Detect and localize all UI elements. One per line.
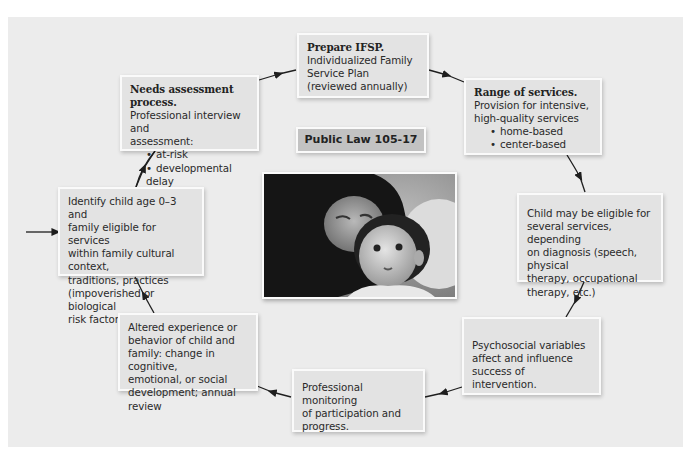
- node-bullet-list: home-based center-based: [474, 125, 592, 151]
- node-line: several services, depending: [527, 220, 653, 246]
- bullet-item: home-based: [490, 125, 592, 138]
- node-line: of participation and: [302, 407, 415, 420]
- node-psychosocial: Psychosocial variables affect and influe…: [462, 317, 601, 395]
- node-line: (impoverished or biological: [68, 287, 194, 313]
- node-altered-experience: Altered experience or behavior of child …: [118, 313, 258, 391]
- node-line: family eligible for services: [68, 221, 194, 247]
- node-bullet-list: at-risk developmental delay: [130, 148, 249, 187]
- node-line: Altered experience or: [128, 321, 248, 334]
- node-line: progress.: [302, 420, 415, 433]
- node-line: Professional interview and: [130, 109, 249, 135]
- bullet-item: center-based: [490, 138, 592, 151]
- node-child-eligible: Child may be eligible for several servic…: [517, 193, 663, 282]
- node-line: assessment:: [130, 135, 249, 148]
- node-range-of-services: Range of services. Provision for intensi…: [464, 78, 602, 155]
- node-needs-assessment: Needs assessment process. Professional i…: [120, 75, 259, 151]
- node-line: (reviewed annually): [307, 80, 419, 93]
- node-line: Professional monitoring: [302, 381, 415, 407]
- node-professional-monitoring: Professional monitoring of participation…: [292, 369, 425, 432]
- node-line: family: change in cognitive,: [128, 347, 248, 373]
- node-title: Needs assessment process.: [130, 83, 249, 109]
- node-title: Range of services.: [474, 86, 592, 99]
- node-title: Prepare IFSP.: [307, 41, 419, 54]
- node-line: within family cultural context,: [68, 247, 194, 273]
- node-line: traditions, practices: [68, 274, 194, 287]
- node-line: success of intervention.: [472, 365, 591, 391]
- bullet-item: at-risk: [146, 148, 249, 161]
- node-line: high-quality services: [474, 112, 592, 125]
- node-line: Service Plan: [307, 67, 419, 80]
- node-line: Psychosocial variables: [472, 339, 591, 352]
- node-line: Individualized Family: [307, 54, 419, 67]
- node-line: behavior of child and: [128, 334, 248, 347]
- node-line: emotional, or social: [128, 373, 248, 386]
- node-line: development; annual review: [128, 386, 248, 412]
- mother-infant-photo: [262, 172, 457, 299]
- public-law-label: Public Law 105-17: [296, 127, 426, 153]
- node-line: therapy, etc.): [527, 286, 653, 299]
- node-prepare-ifsp: Prepare IFSP. Individualized Family Serv…: [297, 33, 429, 98]
- node-line: Child may be eligible for: [527, 207, 653, 220]
- node-line: on diagnosis (speech, physical: [527, 246, 653, 272]
- node-line: affect and influence: [472, 352, 591, 365]
- node-line: therapy, occupational: [527, 272, 653, 285]
- node-line: Identify child age 0–3 and: [68, 195, 194, 221]
- node-identify-child: Identify child age 0–3 and family eligib…: [58, 187, 204, 276]
- bullet-item: developmental delay: [146, 162, 249, 188]
- node-line: Provision for intensive,: [474, 99, 592, 112]
